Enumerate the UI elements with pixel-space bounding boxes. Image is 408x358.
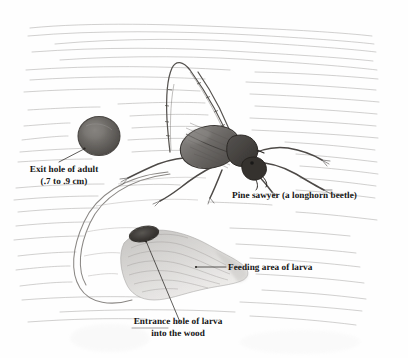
exit-hole (78, 117, 120, 156)
label-feeding-area: Feeding area of larva (228, 262, 312, 274)
leader-exit-hole (59, 149, 84, 162)
label-pine-sawyer-line1: Pine sawyer (a longhorn beetle) (232, 190, 357, 200)
label-exit-hole: Exit hole of adult (.7 to .9 cm) (16, 164, 112, 187)
pine-sawyer-diagram: Exit hole of adult (.7 to .9 cm) Pine sa… (0, 0, 408, 358)
label-entrance-hole-line2: into the wood (120, 328, 236, 340)
label-exit-hole-line2: (.7 to .9 cm) (16, 176, 112, 188)
label-exit-hole-line1: Exit hole of adult (30, 164, 99, 174)
label-pine-sawyer: Pine sawyer (a longhorn beetle) (232, 190, 357, 202)
label-entrance-hole: Entrance hole of larva into the wood (120, 316, 236, 339)
label-entrance-hole-line1: Entrance hole of larva (134, 316, 223, 326)
label-feeding-area-line1: Feeding area of larva (228, 262, 312, 272)
